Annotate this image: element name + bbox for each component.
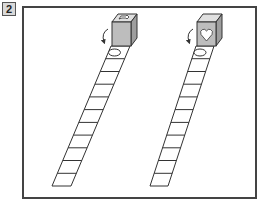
left-ellipse-icon [109,49,121,56]
left-strip [52,46,130,186]
left-cube [112,14,137,46]
left-figure [52,14,137,186]
puzzle-diagram [0,0,260,202]
rotate-arrow-icon [188,29,193,42]
right-cube [197,14,222,46]
right-ellipse-icon [194,49,206,56]
rotate-arrow-icon [103,29,108,42]
right-figure [150,14,222,186]
right-strip [150,46,214,186]
